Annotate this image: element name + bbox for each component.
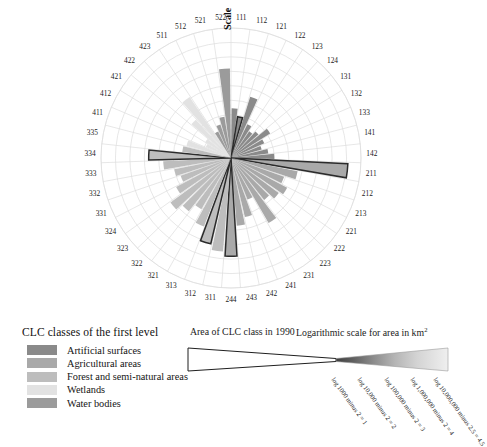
rose-label-521: 521 (195, 16, 206, 25)
rose-label-212: 212 (362, 189, 373, 198)
legend-swatch (27, 385, 57, 395)
rose-label-111: 111 (236, 13, 247, 22)
rose-label-124: 124 (327, 56, 338, 65)
rose-label-244: 244 (225, 295, 236, 304)
rose-label-121: 121 (276, 22, 287, 31)
rose-label-142: 142 (366, 149, 377, 158)
legend-item-label: Artificial surfaces (67, 345, 141, 356)
rose-label-123: 123 (312, 42, 323, 51)
rose-label-335: 335 (87, 128, 98, 137)
rose-label-242: 242 (266, 289, 277, 298)
rose-label-112: 112 (256, 16, 267, 25)
scalebar-heading-left: Area of CLC class in 1990 (190, 326, 295, 337)
rose-label-412: 412 (100, 89, 111, 98)
legend-swatch (27, 398, 57, 408)
legend-swatch (27, 372, 57, 382)
rose-label-213: 213 (355, 209, 366, 218)
rose-label-321: 321 (148, 271, 159, 280)
legend-swatch (27, 345, 57, 355)
rose-label-241: 241 (285, 281, 296, 290)
legend-item-label: Forest and semi-natural areas (67, 371, 188, 382)
rose-label-231: 231 (303, 271, 314, 280)
rose-label-511: 511 (157, 31, 168, 40)
rose-diagram-svg: 1111121211221231241311321331411422112122… (0, 0, 452, 320)
rose-label-141: 141 (364, 128, 375, 137)
rose-label-131: 131 (340, 72, 351, 81)
rose-label-512: 512 (175, 22, 186, 31)
rose-label-323: 323 (117, 244, 128, 253)
rose-label-122: 122 (294, 31, 305, 40)
legend-item-label: Water bodies (67, 398, 121, 409)
rose-label-322: 322 (131, 259, 142, 268)
scalebar-svg (186, 344, 452, 378)
rose-label-411: 411 (92, 108, 103, 117)
rose-label-332: 332 (89, 189, 100, 198)
scalebar-tick-caption: log 1,000,000 minus 2 = 4 (409, 376, 456, 436)
scalebar-wedge (188, 348, 336, 371)
scale-bar-legend: Area of CLC class in 1990 Logarithmic sc… (186, 326, 452, 440)
rose-label-223: 223 (320, 259, 331, 268)
rose-label-133: 133 (359, 108, 370, 117)
rose-label-132: 132 (351, 89, 362, 98)
rose-label-211: 211 (366, 169, 377, 178)
rose-label-421: 421 (111, 72, 122, 81)
legend-item-label: Agricultural areas (67, 358, 141, 369)
rose-label-221: 221 (346, 227, 357, 236)
rose-label-313: 313 (166, 281, 177, 290)
rose-label-333: 333 (85, 169, 96, 178)
rose-label-243: 243 (246, 293, 257, 302)
rose-label-422: 422 (124, 56, 135, 65)
rose-label-423: 423 (139, 42, 150, 51)
rose-label-312: 312 (185, 289, 196, 298)
scalebar-heading-right-text: Logarithmic scale for area in km (296, 327, 424, 338)
rose-label-324: 324 (105, 227, 116, 236)
rose-diagram: 1111121211221231241311321331411422112122… (0, 0, 452, 320)
legend-item-label: Wetlands (67, 384, 105, 395)
scale-axis-label: Scale (222, 7, 233, 30)
rose-label-222: 222 (334, 244, 345, 253)
rose-label-311: 311 (205, 293, 216, 302)
rose-label-331: 331 (96, 209, 107, 218)
scalebar-heading-right: Logarithmic scale for area in km2 (296, 326, 427, 338)
scalebar-gradient (336, 348, 448, 371)
scalebar-heading-right-sup: 2 (424, 326, 427, 333)
rose-label-334: 334 (85, 149, 96, 158)
legend-swatch (27, 358, 57, 368)
